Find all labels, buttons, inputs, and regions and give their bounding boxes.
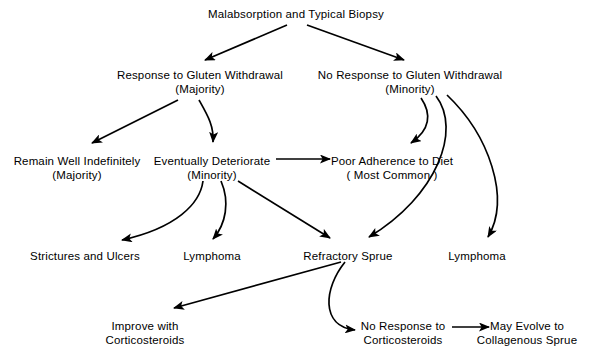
edge-response-to-remain-well (92, 100, 178, 143)
flowchart-canvas: Malabsorption and Typical Biopsy Respons… (0, 0, 592, 353)
node-response-to-gluten-withdrawal: Response to Gluten Withdrawal (Majority) (117, 69, 283, 96)
node-root-line1: Malabsorption and Typical Biopsy (208, 8, 384, 20)
edge-response-to-deteriorate (199, 100, 213, 142)
node-poor-adherence-line1: Poor Adherence to Diet (331, 155, 453, 167)
edge-refractory-to-no-response-cortico (329, 262, 355, 330)
edge-deteriorate-to-lymphoma-left (213, 181, 226, 239)
node-lymphoma-left: Lymphoma (183, 250, 241, 264)
node-improve-line1: Improve with (111, 320, 178, 332)
edge-root-to-no-response (307, 25, 404, 60)
node-refractory-sprue: Refractory Sprue (303, 250, 392, 264)
node-no-response-line1: No Response to Gluten Withdrawal (318, 69, 502, 81)
node-collagenous-line1: May Evolve to (490, 320, 564, 332)
edge-refractory-to-improve (174, 262, 341, 308)
node-collagenous-line2: Collagenous Sprue (477, 334, 577, 348)
node-deteriorate-line1: Eventually Deteriorate (154, 155, 270, 167)
node-no-response-line2: (Minority) (318, 83, 502, 97)
node-improve-line2: Corticosteroids (106, 334, 185, 348)
node-no-response-cortico-line2: Corticosteroids (361, 334, 446, 348)
edge-no-response-to-lymphoma-right (447, 95, 497, 237)
node-refractory-line1: Refractory Sprue (303, 250, 392, 262)
node-no-response-to-corticosteroids: No Response to Corticosteroids (361, 320, 446, 347)
node-lymphoma-right-line1: Lymphoma (448, 250, 506, 262)
node-response-line2: (Majority) (117, 83, 283, 97)
edge-no-response-to-poor-adherence (411, 98, 428, 143)
edge-deteriorate-to-strictures (122, 181, 203, 240)
node-may-evolve-to-collagenous-sprue: May Evolve to Collagenous Sprue (477, 320, 577, 347)
node-poor-adherence-to-diet: Poor Adherence to Diet ( Most Common ) (331, 155, 453, 182)
node-lymphoma-right: Lymphoma (448, 250, 506, 264)
edge-deteriorate-to-refractory (238, 181, 330, 238)
node-improve-with-corticosteroids: Improve with Corticosteroids (106, 320, 185, 347)
edge-root-to-response (205, 25, 287, 60)
node-remain-well-indefinitely: Remain Well Indefinitely (Majority) (14, 155, 141, 182)
node-response-line1: Response to Gluten Withdrawal (117, 69, 283, 81)
node-strictures-line1: Strictures and Ulcers (30, 250, 140, 262)
node-no-response-to-gluten-withdrawal: No Response to Gluten Withdrawal (Minori… (318, 69, 502, 96)
node-eventually-deteriorate: Eventually Deteriorate (Minority) (154, 155, 270, 182)
node-lymphoma-left-line1: Lymphoma (183, 250, 241, 262)
node-strictures-and-ulcers: Strictures and Ulcers (30, 250, 140, 264)
node-poor-adherence-line2: ( Most Common ) (331, 169, 453, 183)
node-root: Malabsorption and Typical Biopsy (208, 8, 384, 22)
node-remain-well-line2: (Majority) (14, 169, 141, 183)
node-deteriorate-line2: (Minority) (154, 169, 270, 183)
node-remain-well-line1: Remain Well Indefinitely (14, 155, 141, 167)
node-no-response-cortico-line1: No Response to (361, 320, 446, 332)
